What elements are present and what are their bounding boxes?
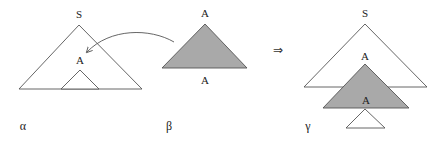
gamma-tree: S A A γ (304, 7, 427, 133)
gamma-root-label: S (362, 7, 368, 19)
gamma-adjoined-foot-label: A (362, 94, 370, 106)
gamma-caption: γ (304, 119, 311, 133)
tree-adjoining-diagram: S A α A A β ⇒ S A A γ (0, 0, 445, 142)
alpha-tree: S A α (19, 8, 142, 133)
implies-arrow-icon: ⇒ (273, 43, 283, 57)
alpha-inner-node-label: A (76, 54, 84, 66)
beta-caption: β (166, 119, 172, 133)
alpha-caption: α (20, 119, 27, 133)
beta-shaded-triangle (162, 24, 247, 68)
beta-tree: A A β (162, 7, 247, 133)
gamma-adjoined-root-label: A (361, 50, 369, 62)
beta-root-label: A (201, 7, 209, 19)
beta-foot-label: A (201, 74, 209, 86)
alpha-root-label: S (76, 8, 82, 20)
gamma-subtree-triangle (346, 109, 385, 128)
